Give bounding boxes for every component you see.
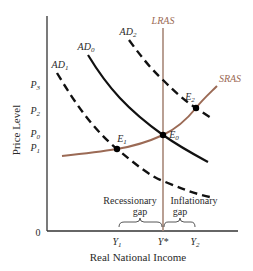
- inflationary-gap-label-line2: gap: [173, 206, 187, 217]
- x-tick-ystar: Y*: [158, 236, 169, 247]
- recessionary-gap-brace: [119, 218, 162, 227]
- e1-label: E1: [116, 133, 127, 146]
- sras-label: SRAS: [219, 73, 241, 84]
- recessionary-gap-label-line2: gap: [133, 206, 147, 217]
- y-axis-label: Price Level: [10, 105, 22, 155]
- y-tick-p3: P3: [29, 79, 40, 92]
- ad0-label: AD0: [77, 41, 95, 54]
- inflationary-gap-label-line1: Inflationary: [170, 195, 217, 206]
- x-axis-label: Real National Income: [90, 251, 187, 263]
- recessionary-gap-label-line1: Recessionary: [103, 195, 156, 206]
- lras-label: LRAS: [151, 15, 175, 26]
- ad-as-diagram: Price Level 0 Real National Income P3 P2…: [0, 0, 253, 271]
- inflationary-gap-brace: [164, 218, 195, 227]
- e1-point: [114, 146, 120, 152]
- y-tick-p0: P0: [29, 128, 40, 141]
- ad2-curve: [129, 40, 213, 119]
- ad2-label: AD2: [119, 26, 137, 39]
- y-tick-p1: P1: [29, 142, 40, 155]
- x-tick-y1: Y1: [112, 236, 121, 249]
- origin-label: 0: [36, 227, 41, 238]
- ad0-curve: [88, 55, 208, 162]
- y-tick-p2: P2: [29, 105, 40, 118]
- e0-point: [160, 132, 166, 138]
- ad1-label: AD1: [51, 59, 69, 72]
- x-tick-y2: Y2: [190, 236, 200, 249]
- e2-point: [193, 105, 199, 111]
